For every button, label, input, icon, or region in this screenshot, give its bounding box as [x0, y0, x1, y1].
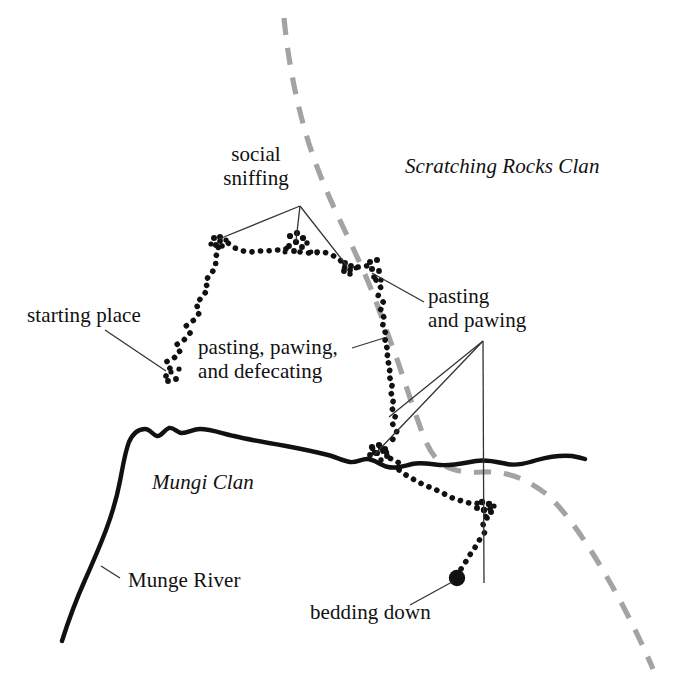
leader-lines: [101, 206, 484, 605]
leader-munge-river: [101, 566, 120, 578]
label-social-sniffing: social sniffing: [196, 143, 316, 190]
bedding-down-marker: [449, 570, 465, 586]
leader-social-sniffing-c: [300, 206, 347, 266]
leader-starting-place: [105, 330, 166, 371]
label-mungi-clan: Mungi Clan: [152, 471, 254, 495]
label-pasting-and-pawing: pasting and pawing: [428, 285, 526, 332]
leader-pasting-pawing-lower-c: [483, 341, 484, 583]
label-scratching-rocks-clan: Scratching Rocks Clan: [405, 155, 600, 179]
map-figure: social sniffing Scratching Rocks Clan st…: [0, 0, 675, 683]
leader-pasting-pawing-lower-b: [375, 341, 483, 454]
clan-boundary-dashed-line: [284, 18, 653, 669]
label-starting-place: starting place: [27, 304, 141, 328]
leader-pasting-pawing-lower-a: [389, 341, 483, 417]
leader-pasting-pawing-defecating: [352, 338, 384, 348]
label-munge-river: Munge River: [128, 569, 241, 593]
label-pasting-pawing-defecating: pasting, pawing, and defecating: [198, 336, 338, 383]
label-bedding-down: bedding down: [310, 601, 431, 625]
